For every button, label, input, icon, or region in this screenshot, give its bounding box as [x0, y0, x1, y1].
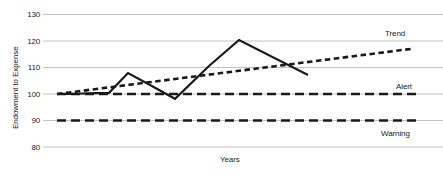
series-label-alert: Alert [396, 82, 412, 91]
series-label-trend: Trend [385, 29, 405, 38]
ytick-label-130: 130 [22, 10, 40, 19]
ytick-label-90: 90 [22, 116, 40, 125]
series-label-warning: Warning [381, 129, 410, 138]
y-axis-title: Endowment to Expense [11, 47, 20, 130]
chart-container: 130 120 110 100 90 80 Trend Alert Warnin… [0, 0, 443, 177]
ytick-label-100: 100 [22, 90, 40, 99]
x-axis-title: Years [220, 155, 240, 164]
chart-plot-area [0, 0, 443, 177]
gridlines [43, 15, 443, 148]
ytick-label-80: 80 [22, 143, 40, 152]
ytick-label-120: 120 [22, 37, 40, 46]
ytick-label-110: 110 [22, 63, 40, 72]
series-line-trend [57, 49, 414, 95]
